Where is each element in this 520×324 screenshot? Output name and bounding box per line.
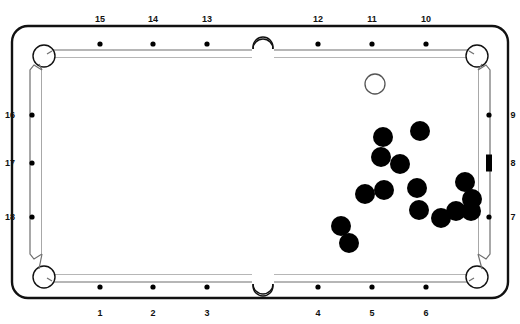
- rail-label-left-17: 17: [3, 158, 17, 168]
- diamond-bottom-2: [204, 284, 209, 289]
- rail-label-bottom-3: 3: [199, 308, 215, 318]
- object-ball-3: [371, 147, 391, 167]
- rail-label-right-8: 8: [506, 158, 520, 168]
- diamond-top-0: [97, 41, 102, 46]
- rail-label-bottom-4: 4: [310, 308, 326, 318]
- object-ball-6: [374, 180, 394, 200]
- bottom-right-pocket: [466, 266, 488, 288]
- object-ball-10: [409, 200, 429, 220]
- top-left-pocket: [33, 45, 55, 67]
- billiard-table-diagram: 151413121110123456161718987: [0, 0, 520, 324]
- object-ball-1: [373, 127, 393, 147]
- object-ball-7: [407, 178, 427, 198]
- diamond-top-5: [423, 41, 428, 46]
- rail-label-top-15: 15: [92, 14, 108, 24]
- object-ball-15: [339, 233, 359, 253]
- object-ball-13: [461, 201, 481, 221]
- rail-label-right-9: 9: [506, 110, 520, 120]
- rail-label-top-13: 13: [199, 14, 215, 24]
- object-ball-2: [410, 121, 430, 141]
- rail-label-top-10: 10: [418, 14, 434, 24]
- rail-label-bottom-6: 6: [418, 308, 434, 318]
- diamond-top-2: [204, 41, 209, 46]
- rail-label-top-14: 14: [145, 14, 161, 24]
- diamond-bottom-4: [369, 284, 374, 289]
- diamond-top-4: [369, 41, 374, 46]
- diamond-bottom-1: [150, 284, 155, 289]
- rail-label-bottom-2: 2: [145, 308, 161, 318]
- object-ball-14: [331, 216, 351, 236]
- top-right-pocket: [466, 45, 488, 67]
- cue-ball-group: [365, 74, 385, 94]
- rail-label-left-18: 18: [3, 212, 17, 222]
- bottom-left-pocket: [33, 266, 55, 288]
- rail-label-top-11: 11: [364, 14, 380, 24]
- cue-ball: [365, 74, 385, 94]
- diamond-bottom-0: [97, 284, 102, 289]
- diamond-right-0: [486, 112, 491, 117]
- object-ball-4: [390, 154, 410, 174]
- diamond-bottom-3: [315, 284, 320, 289]
- diamond-left-2: [29, 214, 34, 219]
- diamond-top-3: [315, 41, 320, 46]
- diamond-right-2: [486, 214, 491, 219]
- rail-label-bottom-5: 5: [364, 308, 380, 318]
- table-graphic: [0, 0, 520, 324]
- rail-label-right-7: 7: [506, 212, 520, 222]
- object-ball-5: [355, 184, 375, 204]
- rail-label-top-12: 12: [310, 14, 326, 24]
- diamond-top-1: [150, 41, 155, 46]
- diamond-left-0: [29, 112, 34, 117]
- diamond-left-1: [29, 160, 34, 165]
- diamond-bottom-5: [423, 284, 428, 289]
- rail-label-left-16: 16: [3, 110, 17, 120]
- table-playfield: [42, 58, 478, 274]
- diamond-right-1: [486, 155, 492, 172]
- rail-label-bottom-1: 1: [92, 308, 108, 318]
